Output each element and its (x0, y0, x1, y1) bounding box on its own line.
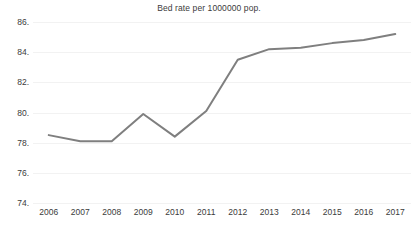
x-tick-label-2007: 2007 (71, 207, 90, 217)
x-tick-label-2016: 2016 (354, 207, 373, 217)
chart-title: Bed rate per 1000000 pop. (0, 3, 418, 13)
y-axis: 74.76.78.80.82.84.86. (0, 0, 33, 237)
chart-container: Bed rate per 1000000 pop. 74.76.78.80.82… (0, 0, 418, 237)
y-tick-label-86: 86. (17, 17, 29, 27)
y-tick-label-74: 74. (17, 198, 29, 208)
y-tick-label-80: 80. (17, 108, 29, 118)
y-tick-label-84: 84. (17, 47, 29, 57)
x-tick-label-2015: 2015 (323, 207, 342, 217)
x-axis: 2006200720082009201020112012201320142015… (33, 207, 411, 227)
x-tick-label-2008: 2008 (102, 207, 121, 217)
plot-area (33, 22, 411, 203)
gridline-74 (33, 203, 411, 204)
x-tick-label-2017: 2017 (386, 207, 405, 217)
series-line-bed-rate (33, 22, 411, 203)
y-tick-label-82: 82. (17, 77, 29, 87)
x-tick-label-2009: 2009 (134, 207, 153, 217)
x-tick-label-2006: 2006 (39, 207, 58, 217)
x-tick-label-2013: 2013 (260, 207, 279, 217)
series-path (49, 34, 396, 141)
x-tick-label-2011: 2011 (197, 207, 215, 217)
x-tick-label-2012: 2012 (228, 207, 247, 217)
x-tick-label-2014: 2014 (291, 207, 310, 217)
y-tick-label-76: 76. (17, 168, 29, 178)
x-tick-label-2010: 2010 (165, 207, 184, 217)
y-tick-label-78: 78. (17, 138, 29, 148)
